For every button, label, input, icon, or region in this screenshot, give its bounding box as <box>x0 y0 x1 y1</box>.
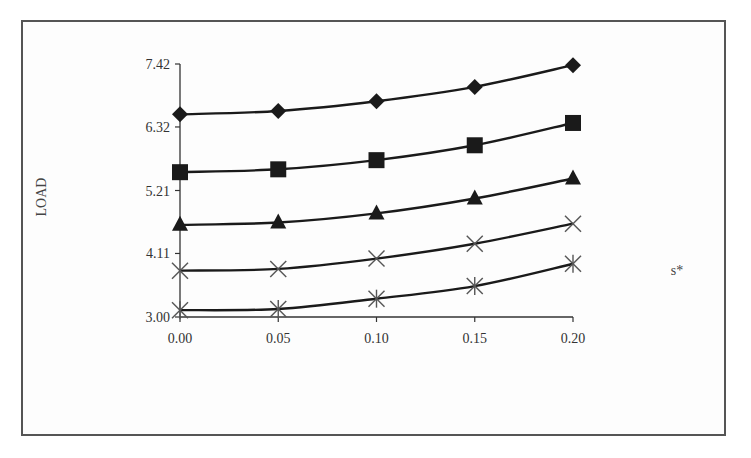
axes: 3.004.115.216.327.420.000.050.100.150.20 <box>146 57 586 346</box>
series-diamond <box>172 57 581 122</box>
square-marker <box>565 115 581 131</box>
diamond-marker <box>467 79 483 95</box>
line-chart: 3.004.115.216.327.420.000.050.100.150.20… <box>0 0 751 458</box>
square-marker <box>270 161 286 177</box>
triangle-marker <box>565 169 581 184</box>
asterisk-marker <box>565 255 581 273</box>
y-tick-label: 6.32 <box>146 120 171 135</box>
y-tick-label: 5.21 <box>146 184 171 199</box>
series-triangle <box>172 169 581 230</box>
diamond-marker <box>369 93 385 109</box>
diamond-marker <box>172 106 188 122</box>
diamond-marker <box>565 57 581 73</box>
series-line <box>180 224 573 271</box>
x-tick-label: 0.00 <box>168 331 193 346</box>
series-square <box>172 115 581 180</box>
x-tick-label: 0.10 <box>364 331 389 346</box>
x-tick-label: 0.20 <box>561 331 586 346</box>
diamond-marker <box>270 103 286 119</box>
y-tick-label: 4.11 <box>146 246 170 261</box>
triangle-marker <box>172 216 188 231</box>
y-axis-title: LOAD <box>34 178 49 217</box>
x-tick-label: 0.15 <box>463 331 488 346</box>
square-marker <box>172 164 188 180</box>
square-marker <box>467 137 483 153</box>
y-tick-label: 3.00 <box>146 310 171 325</box>
series-asterisk <box>172 255 581 319</box>
x-axis-title: s* <box>671 263 683 278</box>
x-tick-label: 0.05 <box>266 331 291 346</box>
series-group <box>172 57 581 319</box>
square-marker <box>369 152 385 168</box>
y-tick-label: 7.42 <box>146 57 171 72</box>
